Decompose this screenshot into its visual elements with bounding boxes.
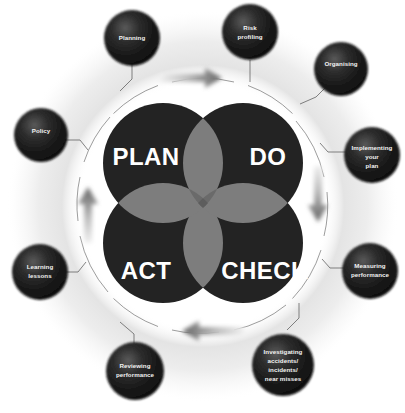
node-implementing-your-plan[interactable]: Implementing your plan [344,127,400,183]
quadrant-label-act: ACT [121,257,172,284]
node-investigating-label-line-1: Investigating [264,348,303,355]
node-policy-label-line-1: Policy [32,127,51,134]
diagram-canvas: PLAN DO ACT CHECK [0,0,405,413]
node-implementing-label-line-3: plan [366,162,379,169]
node-investigating-label-line-2: accidents/ [268,357,299,364]
node-risk-profiling-label-line-1: Risk [243,24,257,31]
quadrant-label-do: DO [250,143,287,170]
node-investigating-label-line-3: incidents/ [268,366,298,373]
node-learning-label-line-1: Learning [27,263,54,270]
node-reviewing-label-line-2: performance [116,371,155,378]
pdca-venn-core: PLAN DO ACT CHECK [100,100,310,310]
node-measuring-performance[interactable]: Measuring performance [342,243,398,299]
quadrant-label-check: CHECK [221,257,309,284]
node-reviewing-label-line-1: Reviewing [119,362,150,369]
pdca-cycle-diagram: PLAN DO ACT CHECK [0,0,405,413]
node-investigating-label-line-4: near misses [265,375,302,382]
node-measuring-label-line-1: Measuring [354,262,386,269]
node-reviewing-performance[interactable]: Reviewing performance [106,342,164,400]
node-organising[interactable]: Organising [314,42,368,96]
node-organising-label-line-1: Organising [324,60,357,67]
node-investigating-accidents[interactable]: Investigating accidents/ incidents/ near… [252,334,314,396]
node-learning-label-line-2: lessons [28,272,52,279]
node-implementing-label-line-2: your [365,153,379,160]
node-implementing-label-line-1: Implementing [352,144,393,151]
node-planning-label-line-1: Planning [119,34,146,41]
node-risk-profiling[interactable]: Risk profiling [222,4,278,60]
node-planning[interactable]: Planning [104,10,160,66]
node-measuring-label-line-2: performance [351,271,390,278]
quadrant-label-plan: PLAN [113,143,180,170]
node-policy[interactable]: Policy [14,108,68,162]
node-risk-profiling-label-line-2: profiling [237,33,262,40]
node-learning-lessons[interactable]: Learning lessons [12,244,68,300]
